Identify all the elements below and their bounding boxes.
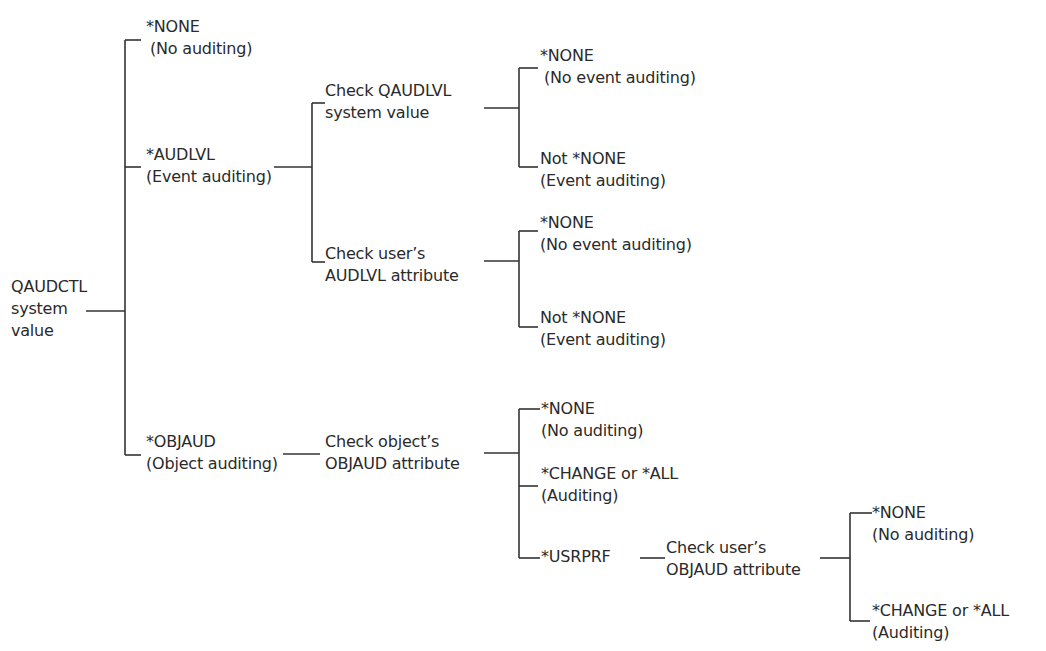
branch-none-result: (No auditing) xyxy=(146,38,252,60)
outcome-value: *NONE xyxy=(540,45,696,67)
branch-audlvl: *AUDLVL (Event auditing) xyxy=(146,144,272,188)
branch-none: *NONE (No auditing) xyxy=(146,16,252,60)
outcome-result: (Auditing) xyxy=(872,622,1009,644)
check-user-audlvl-line2: AUDLVL attribute xyxy=(325,265,459,287)
outcome-result: (Event auditing) xyxy=(540,170,666,192)
branch-audlvl-value: *AUDLVL xyxy=(146,144,272,166)
user-objaud-outcome-none: *NONE (No auditing) xyxy=(872,502,974,546)
outcome-result: (No auditing) xyxy=(872,524,974,546)
object-objaud-outcome-change-or-all: *CHANGE or *ALL (Auditing) xyxy=(541,463,678,507)
root-label-line3: value xyxy=(11,320,87,342)
outcome-result: (Event auditing) xyxy=(540,329,666,351)
check-qaudlvl-line2: system value xyxy=(325,102,451,124)
auditing-decision-tree: QAUDCTL system value *NONE (No auditing)… xyxy=(0,0,1046,651)
root-node-qaudctl: QAUDCTL system value xyxy=(11,276,87,342)
outcome-result: (No auditing) xyxy=(541,420,643,442)
branch-objaud-value: *OBJAUD xyxy=(146,431,278,453)
branch-none-value: *NONE xyxy=(146,16,252,38)
qaudlvl-outcome-none: *NONE (No event auditing) xyxy=(540,45,696,89)
branch-objaud-result: (Object auditing) xyxy=(146,453,278,475)
outcome-value: *NONE xyxy=(872,502,974,524)
root-label-line1: QAUDCTL xyxy=(11,276,87,298)
user-audlvl-outcome-not-none: Not *NONE (Event auditing) xyxy=(540,307,666,351)
check-object-objaud-line1: Check object’s xyxy=(325,431,460,453)
outcome-value: Not *NONE xyxy=(540,148,666,170)
outcome-value: *CHANGE or *ALL xyxy=(541,463,678,485)
outcome-result: (No event auditing) xyxy=(540,67,696,89)
branch-objaud: *OBJAUD (Object auditing) xyxy=(146,431,278,475)
outcome-value: *CHANGE or *ALL xyxy=(872,600,1009,622)
outcome-value: Not *NONE xyxy=(540,307,666,329)
outcome-value: *USRPRF xyxy=(541,546,611,568)
branch-audlvl-result: (Event auditing) xyxy=(146,166,272,188)
outcome-value: *NONE xyxy=(540,212,692,234)
connector-lines xyxy=(0,0,1046,651)
object-objaud-outcome-usrprf: *USRPRF xyxy=(541,546,611,568)
check-qaudlvl-line1: Check QAUDLVL xyxy=(325,80,451,102)
user-audlvl-outcome-none: *NONE (No event auditing) xyxy=(540,212,692,256)
check-object-objaud-attribute: Check object’s OBJAUD attribute xyxy=(325,431,460,475)
check-user-objaud-line1: Check user’s xyxy=(666,537,801,559)
outcome-result: (No event auditing) xyxy=(540,234,692,256)
object-objaud-outcome-none: *NONE (No auditing) xyxy=(541,398,643,442)
outcome-value: *NONE xyxy=(541,398,643,420)
check-qaudlvl-system-value: Check QAUDLVL system value xyxy=(325,80,451,124)
check-user-objaud-attribute: Check user’s OBJAUD attribute xyxy=(666,537,801,581)
check-user-audlvl-attribute: Check user’s AUDLVL attribute xyxy=(325,243,459,287)
check-user-objaud-line2: OBJAUD attribute xyxy=(666,559,801,581)
qaudlvl-outcome-not-none: Not *NONE (Event auditing) xyxy=(540,148,666,192)
user-objaud-outcome-change-or-all: *CHANGE or *ALL (Auditing) xyxy=(872,600,1009,644)
check-user-audlvl-line1: Check user’s xyxy=(325,243,459,265)
outcome-result: (Auditing) xyxy=(541,485,678,507)
root-label-line2: system xyxy=(11,298,87,320)
check-object-objaud-line2: OBJAUD attribute xyxy=(325,453,460,475)
